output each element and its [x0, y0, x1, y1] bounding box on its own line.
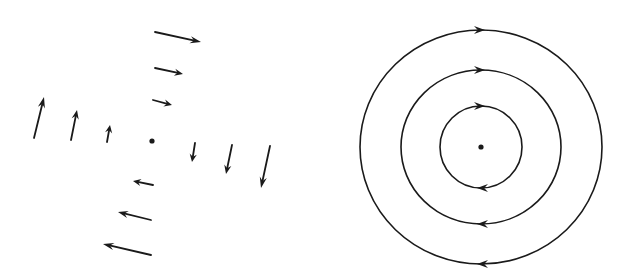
arrow-shaft — [71, 115, 76, 140]
arrow-shaft — [34, 103, 42, 138]
arrow-shaft — [109, 245, 151, 255]
arrow-shaft — [262, 146, 270, 182]
diagram-canvas — [0, 0, 625, 278]
circular-field-lines-panel — [360, 26, 602, 268]
vector-field-panel — [34, 32, 270, 255]
arrow-shaft — [227, 145, 232, 169]
vector-arrow-bottom-2 — [118, 211, 151, 220]
arrow-shaft — [155, 68, 178, 73]
vector-arrow-bottom-1 — [133, 179, 153, 186]
arrow-shaft — [107, 130, 109, 142]
vector-arrow-top-3 — [153, 99, 172, 106]
vector-arrow-left-2 — [71, 110, 79, 140]
arrow-shaft — [124, 213, 151, 220]
vector-arrow-right-3 — [260, 146, 270, 188]
arrow-shaft — [138, 182, 153, 185]
vector-arrow-left-1 — [34, 97, 45, 138]
center-point — [478, 144, 483, 149]
vector-arrow-right-2 — [224, 145, 232, 174]
vector-arrow-bottom-3 — [103, 243, 151, 255]
vector-arrow-top-2 — [155, 68, 183, 76]
arrow-shaft — [153, 100, 167, 104]
vector-arrow-top-1 — [155, 32, 201, 43]
arrow-shaft — [193, 143, 195, 157]
vector-arrow-right-1 — [190, 143, 197, 162]
vector-arrow-left-3 — [105, 125, 112, 142]
center-point — [149, 138, 154, 143]
arrow-shaft — [155, 32, 195, 41]
